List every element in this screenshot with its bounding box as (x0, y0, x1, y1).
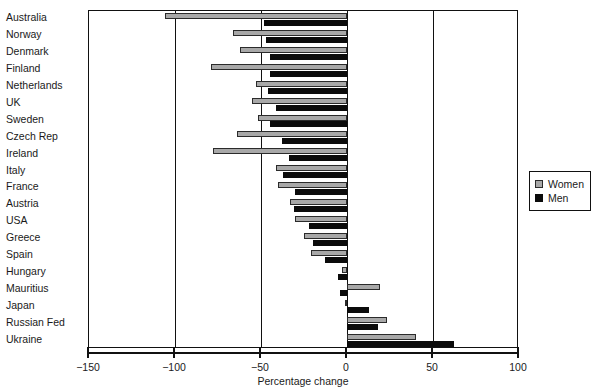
bar-women (258, 115, 347, 121)
category-axis-labels: AustraliaNorwayDenmarkFinlandNetherlands… (0, 10, 84, 348)
bar-women (237, 131, 347, 137)
bar-men (268, 88, 347, 94)
bar-men (295, 189, 347, 195)
bar-chart-figure: AustraliaNorwayDenmarkFinlandNetherlands… (0, 0, 598, 392)
category-label: Sweden (0, 114, 80, 125)
bar-women (347, 317, 387, 323)
bar-group (89, 332, 517, 349)
category-label: Australia (0, 12, 80, 23)
bar-group (89, 180, 517, 197)
category-label: Finland (0, 63, 80, 74)
x-axis-tick (173, 347, 174, 358)
bar-women (311, 250, 347, 256)
bar-women (211, 64, 347, 70)
category-label: Ireland (0, 148, 80, 159)
legend-item-men: Men (535, 191, 586, 205)
bar-men (294, 206, 347, 212)
category-label: Japan (0, 300, 80, 311)
category-label: Norway (0, 29, 80, 40)
x-axis-tick-label: 50 (426, 361, 438, 373)
bar-men (347, 324, 378, 330)
bar-group (89, 163, 517, 180)
legend-label-men: Men (548, 192, 568, 204)
category-label: Austria (0, 198, 80, 209)
bar-group (89, 62, 517, 79)
bar-group (89, 265, 517, 282)
bar-women (347, 334, 416, 340)
bar-men (270, 121, 347, 127)
bar-women (290, 199, 347, 205)
bar-women (342, 267, 347, 273)
x-axis-tick-label: −50 (251, 361, 269, 373)
bar-men (340, 290, 347, 296)
bar-group (89, 11, 517, 28)
legend-item-women: Women (535, 177, 586, 191)
bar-men (338, 274, 347, 280)
bar-group (89, 214, 517, 231)
bar-group (89, 248, 517, 265)
bar-men (270, 71, 347, 77)
bar-men (282, 138, 347, 144)
bar-men (309, 223, 347, 229)
bar-women (278, 182, 347, 188)
bar-women (165, 13, 347, 19)
category-label: Ukraine (0, 334, 80, 345)
legend-swatch-men-icon (535, 194, 543, 202)
x-axis-tick-label: 0 (343, 361, 349, 373)
bar-group (89, 197, 517, 214)
bar-men (283, 172, 347, 178)
x-axis-tick-label: 100 (509, 361, 527, 373)
x-axis-tick (345, 347, 346, 358)
bar-men (347, 341, 454, 347)
x-axis-line (88, 352, 518, 354)
x-axis-tick-label: −100 (162, 361, 186, 373)
x-axis-tick (259, 347, 260, 358)
bar-men (264, 20, 347, 26)
bar-group (89, 45, 517, 62)
bar-women (213, 148, 347, 154)
category-label: Spain (0, 249, 80, 260)
bar-men (313, 240, 347, 246)
bar-men (266, 37, 347, 43)
x-axis-tick (517, 347, 518, 358)
x-axis-tick (87, 347, 88, 358)
bar-women (295, 216, 347, 222)
bar-women (347, 284, 380, 290)
category-label: Italy (0, 165, 80, 176)
category-label: Netherlands (0, 80, 80, 91)
bar-women (240, 47, 347, 53)
legend-label-women: Women (548, 178, 584, 190)
bar-group (89, 112, 517, 129)
bar-women (345, 300, 347, 306)
bar-group (89, 231, 517, 248)
bar-men (289, 155, 347, 161)
bar-group (89, 96, 517, 113)
category-label: Czech Rep (0, 131, 80, 142)
category-label: France (0, 181, 80, 192)
bar-men (270, 54, 347, 60)
category-label: UK (0, 97, 80, 108)
category-label: Denmark (0, 46, 80, 57)
bar-women (233, 30, 347, 36)
x-axis-tick (431, 347, 432, 358)
bar-group (89, 281, 517, 298)
bar-group (89, 79, 517, 96)
bar-group (89, 28, 517, 45)
plot-area (88, 10, 518, 348)
bar-group (89, 298, 517, 315)
category-label: Mauritius (0, 283, 80, 294)
category-label: Hungary (0, 266, 80, 277)
legend-swatch-women-icon (535, 180, 543, 188)
x-axis-tick-label: −150 (76, 361, 100, 373)
bar-men (325, 257, 347, 263)
bar-women (276, 165, 347, 171)
bar-group (89, 129, 517, 146)
bar-women (252, 98, 347, 104)
chart-legend: Women Men (529, 171, 591, 211)
x-axis-title: Percentage change (88, 375, 518, 387)
bar-group (89, 315, 517, 332)
bar-men (276, 105, 347, 111)
category-label: USA (0, 215, 80, 226)
category-label: Russian Fed (0, 317, 80, 328)
bar-women (256, 81, 347, 87)
